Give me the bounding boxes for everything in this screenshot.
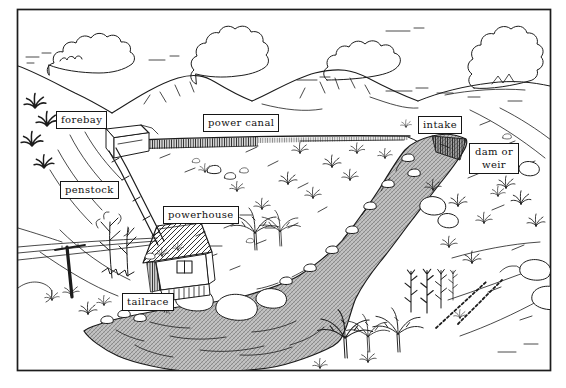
label-forebay: forebay — [56, 111, 107, 129]
label-penstock: penstock — [60, 181, 119, 199]
label-tailrace: tailrace — [122, 293, 174, 311]
label-powerhouse: powerhouse — [163, 206, 239, 224]
label-intake: intake — [418, 116, 462, 134]
label-dam-or-weir: dam or weir — [469, 143, 519, 174]
figure-illustration: forebay power canal intake dam or weir p… — [0, 0, 566, 388]
label-power-canal: power canal — [203, 114, 279, 132]
